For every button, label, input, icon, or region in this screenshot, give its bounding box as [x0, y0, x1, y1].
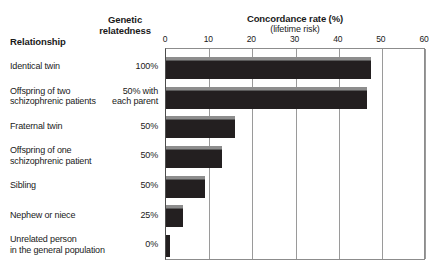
- row-label-5: Nephew or niece: [10, 210, 75, 221]
- bar-shade-3: [166, 149, 222, 150]
- row-label-3-line-1: schizophrenic patient: [10, 156, 91, 167]
- chart-axis-title: Concordance rate (%): [165, 13, 425, 24]
- genetic-relatedness-4: 50%: [140, 180, 158, 191]
- row-label-2-line-0: Fraternal twin: [10, 121, 62, 132]
- genetic-relatedness-2-line-0: 50%: [140, 121, 158, 132]
- genetic-relatedness-1-line-0: 50% with: [112, 86, 158, 97]
- x-axis-tick-40: 40: [333, 34, 342, 44]
- chart-axis-subtitle: (lifetime risk): [165, 24, 425, 34]
- bar-row-4: [166, 176, 205, 198]
- column-header-genetic-line2: relatedness: [88, 25, 162, 36]
- row-label-2: Fraternal twin: [10, 121, 62, 132]
- chart-figure: Relationship Genetic relatedness Concord…: [0, 0, 439, 269]
- row-label-4: Sibling: [10, 180, 36, 191]
- gridline-50: [382, 49, 383, 259]
- genetic-relatedness-5: 25%: [140, 210, 158, 221]
- gridline-40: [339, 49, 340, 259]
- chart-plot-area: [165, 48, 425, 260]
- genetic-relatedness-3: 50%: [140, 150, 158, 161]
- x-axis-tick-10: 10: [204, 34, 213, 44]
- genetic-relatedness-0-line-0: 100%: [136, 61, 158, 72]
- genetic-relatedness-1-line-1: each parent: [112, 96, 158, 107]
- bar-row-2: [166, 116, 235, 138]
- gridline-30: [296, 49, 297, 259]
- genetic-relatedness-4-line-0: 50%: [140, 180, 158, 191]
- genetic-relatedness-5-line-0: 25%: [140, 210, 158, 221]
- bar-row-3: [166, 146, 222, 168]
- column-header-relationship: Relationship: [10, 36, 66, 47]
- bar-shade-0: [166, 60, 371, 61]
- row-label-1: Offspring of twoschizophrenic patients: [10, 86, 96, 107]
- bar-row-0: [166, 57, 371, 79]
- x-axis-tick-50: 50: [376, 34, 385, 44]
- genetic-relatedness-6: 0%: [145, 239, 158, 250]
- bar-row-1: [166, 87, 367, 109]
- gridline-60: [425, 49, 426, 259]
- bar-row-5: [166, 205, 183, 227]
- row-label-0-line-0: Identical twin: [10, 61, 60, 72]
- x-axis-tick-30: 30: [290, 34, 299, 44]
- row-label-3: Offspring of oneschizophrenic patient: [10, 145, 91, 166]
- x-axis-tick-60: 60: [419, 34, 428, 44]
- genetic-relatedness-column: 100%50% witheach parent50%50%50%25%0%: [88, 48, 162, 260]
- row-label-0: Identical twin: [10, 61, 60, 72]
- column-header-genetic-relatedness: Genetic relatedness: [88, 14, 162, 36]
- genetic-relatedness-1: 50% witheach parent: [112, 86, 158, 107]
- row-label-1-line-1: schizophrenic patients: [10, 96, 96, 107]
- x-axis-tick-0: 0: [163, 34, 168, 44]
- row-label-1-line-0: Offspring of two: [10, 86, 96, 97]
- x-axis-tick-20: 20: [247, 34, 256, 44]
- row-label-3-line-0: Offspring of one: [10, 145, 91, 156]
- genetic-relatedness-0: 100%: [136, 61, 158, 72]
- bar-shade-2: [166, 119, 235, 120]
- genetic-relatedness-3-line-0: 50%: [140, 150, 158, 161]
- bar-shade-4: [166, 179, 205, 180]
- bar-row-6: [166, 235, 170, 257]
- bar-shade-1: [166, 90, 367, 91]
- row-label-5-line-0: Nephew or niece: [10, 210, 75, 221]
- genetic-relatedness-2: 50%: [140, 121, 158, 132]
- genetic-relatedness-6-line-0: 0%: [145, 239, 158, 250]
- gridline-20: [252, 49, 253, 259]
- bar-shade-5: [166, 208, 183, 209]
- row-label-4-line-0: Sibling: [10, 180, 36, 191]
- column-header-genetic-line1: Genetic: [88, 14, 162, 25]
